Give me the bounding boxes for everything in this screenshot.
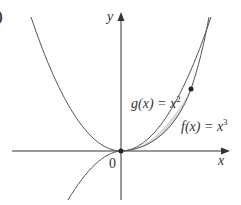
y-axis-label: y <box>107 10 113 24</box>
g-curve-label: g(x) = x2 <box>131 95 181 111</box>
panel-label: ) <box>0 10 3 24</box>
y-axis-arrow-icon <box>118 12 125 21</box>
intersection-point <box>189 87 194 92</box>
origin-point <box>119 149 124 154</box>
f-curve-label: f(x) = x3 <box>181 118 228 134</box>
x-axis-label: x <box>218 154 224 168</box>
graph-canvas <box>0 0 241 205</box>
origin-label: 0 <box>109 157 116 171</box>
